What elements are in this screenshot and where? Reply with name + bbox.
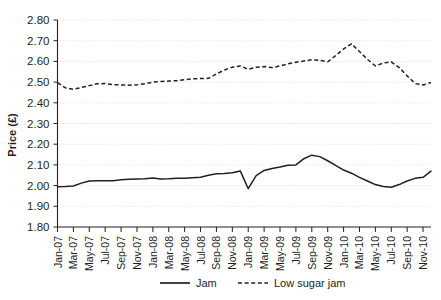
- x-tick-label: Mar-07: [67, 236, 79, 269]
- y-tick-label: 2.30: [27, 118, 49, 130]
- x-tick-label: May-09: [274, 236, 286, 271]
- series-line-jam: [58, 155, 432, 189]
- y-tick-label: 2.00: [27, 180, 49, 192]
- legend-label-jam: Jam: [196, 277, 217, 289]
- x-tick-label: Mar-10: [353, 236, 365, 269]
- legend-label-low-sugar-jam: Low sugar jam: [274, 277, 346, 289]
- x-tick-label: Sep-07: [115, 236, 127, 270]
- x-tick-label: Nov-08: [226, 236, 238, 270]
- x-axis-tickmarks: [58, 227, 424, 232]
- y-axis-title-text: Price (£): [6, 113, 18, 157]
- x-tick-label: Jan-08: [147, 236, 159, 268]
- y-axis-title: Price (£): [6, 113, 18, 157]
- x-tick-label: Jul-09: [290, 236, 302, 265]
- x-tick-label: Jan-09: [242, 236, 254, 268]
- y-tick-label: 2.20: [27, 138, 49, 150]
- y-tick-label: 2.80: [27, 14, 49, 26]
- y-tick-label: 2.50: [27, 76, 49, 88]
- x-tick-label: Jan-07: [52, 236, 64, 268]
- y-tick-label: 2.60: [27, 55, 49, 67]
- gridlines: [54, 20, 432, 227]
- y-tick-label: 2.40: [27, 97, 49, 109]
- price-line-chart: 2.802.702.602.502.402.302.202.102.001.90…: [0, 0, 441, 300]
- chart-canvas: 2.802.702.602.502.402.302.202.102.001.90…: [0, 0, 441, 300]
- x-tick-label: Nov-10: [417, 236, 429, 270]
- x-tick-label: Jul-07: [99, 236, 111, 265]
- x-tick-label: Mar-08: [163, 236, 175, 269]
- y-tick-label: 1.80: [27, 221, 49, 233]
- y-tick-label: 1.90: [27, 200, 49, 212]
- series-line-low-sugar-jam: [58, 44, 432, 90]
- x-tick-label: Mar-09: [258, 236, 270, 269]
- y-tick-label: 2.10: [27, 159, 49, 171]
- x-tick-label: Nov-07: [131, 236, 143, 270]
- x-tick-label: Jan-10: [338, 236, 350, 268]
- x-tick-label: May-08: [179, 236, 191, 271]
- x-tick-label: Sep-09: [306, 236, 318, 270]
- x-tick-label: May-07: [83, 236, 95, 271]
- x-axis-tick-labels: Jan-07Mar-07May-07Jul-07Sep-07Nov-07Jan-…: [52, 236, 430, 271]
- x-tick-label: Sep-10: [401, 236, 413, 270]
- x-tick-label: Jul-08: [195, 236, 207, 265]
- chart-legend: Jam Low sugar jam: [160, 277, 346, 289]
- x-tick-label: Jul-10: [385, 236, 397, 265]
- x-tick-label: May-10: [369, 236, 381, 271]
- x-tick-label: Nov-09: [322, 236, 334, 270]
- y-tick-label: 2.70: [27, 35, 49, 47]
- y-axis-tick-labels: 2.802.702.602.502.402.302.202.102.001.90…: [27, 14, 49, 233]
- x-tick-label: Sep-08: [210, 236, 222, 270]
